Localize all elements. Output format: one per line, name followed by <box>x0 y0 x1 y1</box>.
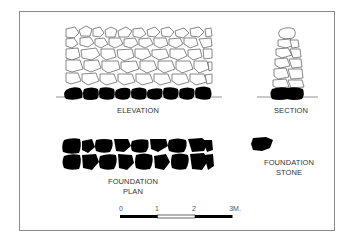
section-foundation-stones <box>271 87 304 100</box>
elevation-foundation-stones <box>64 87 212 101</box>
foundation-stone-label-line1: FOUNDATION <box>264 158 314 168</box>
scale-tick-2: 2 <box>192 205 196 213</box>
section-label: SECTION <box>274 106 308 116</box>
drawing-canvas <box>0 0 351 244</box>
scale-tick-3m: 3M. <box>229 205 241 213</box>
section-wall <box>273 28 304 88</box>
scale-tick-1: 1 <box>155 205 159 213</box>
foundation-stone-shape <box>251 137 273 151</box>
foundation-plan-label-line1: FOUNDATION <box>108 177 158 187</box>
foundation-stone-label-line2: STONE <box>276 168 302 178</box>
scale-segment-3 <box>195 215 233 218</box>
scale-segment-1 <box>120 215 158 218</box>
elevation-label: ELEVATION <box>117 106 159 116</box>
foundation-plan-label-line2: PLAN <box>123 187 143 197</box>
foundation-plan-stones <box>62 138 214 170</box>
scale-tick-0: 0 <box>119 205 123 213</box>
scale-segment-2 <box>158 215 196 218</box>
scale-bar <box>120 215 233 218</box>
elevation-wall <box>66 26 212 85</box>
